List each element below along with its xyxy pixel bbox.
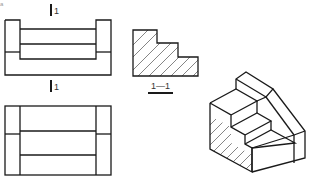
- front-view: 1 1: [5, 4, 111, 92]
- cutting-plane-label-top: 1: [54, 6, 59, 16]
- section-label: 1—1: [151, 81, 170, 91]
- top-view: [5, 106, 111, 175]
- isometric-view: [205, 72, 305, 172]
- cutting-plane-label-bottom: 1: [54, 82, 59, 92]
- technical-drawing: a 1 1: [0, 0, 311, 190]
- section-view: 1—1: [120, 28, 239, 93]
- corner-mark: a: [0, 1, 4, 7]
